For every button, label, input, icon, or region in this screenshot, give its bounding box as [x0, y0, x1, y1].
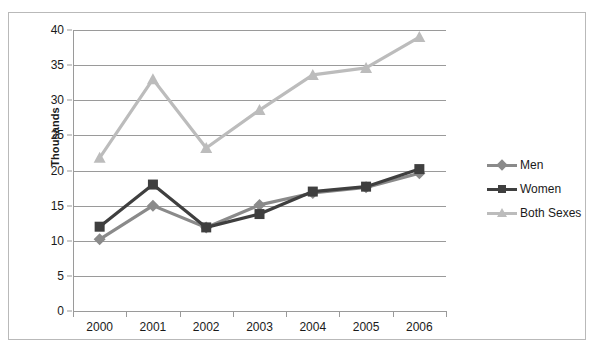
legend-label: Women	[520, 182, 561, 196]
series-line	[100, 37, 420, 158]
x-tick-label: 2005	[353, 320, 380, 334]
plot-area: 0510152025303540 20002001200220032004200…	[73, 30, 446, 311]
y-tick-label: 30	[51, 93, 64, 107]
y-tick-mark	[67, 240, 72, 241]
y-tick-label: 5	[57, 269, 64, 283]
x-tick-mark	[233, 311, 234, 317]
series-plot	[73, 30, 446, 311]
legend-item-women[interactable]: Women	[487, 177, 579, 201]
y-tick-mark	[67, 30, 72, 31]
x-tick-label: 2002	[193, 320, 220, 334]
data-point-marker	[201, 222, 211, 232]
data-point-marker	[95, 222, 105, 232]
legend-label: Men	[520, 158, 543, 172]
y-tick-label: 25	[51, 128, 64, 142]
data-point-marker	[414, 164, 424, 174]
x-tick-label: 2000	[86, 320, 113, 334]
y-tick-label: 15	[51, 199, 64, 213]
series-men	[94, 167, 426, 245]
y-tick-mark	[67, 65, 72, 66]
y-tick-label: 0	[57, 304, 64, 318]
chart-frame: Thousands 0510152025303540 2000200120022…	[8, 12, 586, 340]
data-point-marker	[361, 182, 371, 192]
legend-swatch-icon	[487, 182, 517, 196]
x-tick-label: 2001	[140, 320, 167, 334]
y-tick-label: 35	[51, 58, 64, 72]
y-tick-mark	[67, 275, 72, 276]
x-tick-mark	[286, 311, 287, 317]
legend-marker-triangle-icon	[497, 208, 507, 217]
x-tick-label: 2004	[299, 320, 326, 334]
data-point-marker	[147, 73, 159, 84]
y-tick-label: 10	[51, 234, 64, 248]
data-point-marker	[255, 209, 265, 219]
x-tick-label: 2006	[406, 320, 433, 334]
x-tick-mark	[73, 311, 74, 317]
chart-legend: MenWomenBoth Sexes	[487, 153, 579, 225]
y-tick-mark	[67, 135, 72, 136]
legend-item-men[interactable]: Men	[487, 153, 579, 177]
legend-swatch-icon	[487, 206, 517, 220]
x-tick-label: 2003	[246, 320, 273, 334]
data-point-marker	[308, 187, 318, 197]
y-tick-mark	[67, 205, 72, 206]
y-tick-label: 20	[51, 164, 64, 178]
x-tick-mark	[339, 311, 340, 317]
data-point-marker	[148, 180, 158, 190]
legend-label: Both Sexes	[520, 206, 581, 220]
y-tick-mark	[67, 100, 72, 101]
gridline	[73, 311, 446, 312]
legend-item-both-sexes[interactable]: Both Sexes	[487, 201, 579, 225]
y-tick-mark	[67, 311, 72, 312]
x-tick-mark	[180, 311, 181, 317]
series-women	[95, 164, 425, 232]
x-tick-mark	[393, 311, 394, 317]
legend-marker-diamond-icon	[496, 159, 507, 170]
y-tick-mark	[67, 170, 72, 171]
data-point-marker	[413, 31, 425, 42]
x-tick-mark	[126, 311, 127, 317]
series-both-sexes	[94, 31, 426, 163]
legend-marker-square-icon	[498, 185, 506, 193]
legend-swatch-icon	[487, 158, 517, 172]
y-tick-label: 40	[51, 23, 64, 37]
x-tick-mark	[446, 311, 447, 317]
